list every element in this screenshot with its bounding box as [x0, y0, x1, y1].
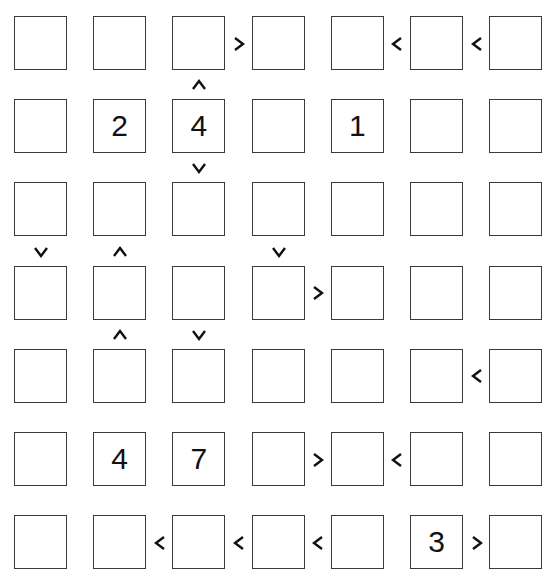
grid-cell[interactable]	[14, 182, 67, 236]
grid-cell[interactable]	[172, 16, 225, 70]
grid-cell[interactable]	[93, 266, 146, 320]
down-inequality-sign-icon	[190, 326, 208, 344]
grid-cell[interactable]	[410, 182, 463, 236]
grid-cell[interactable]	[331, 432, 384, 486]
greater-than-sign-icon	[468, 534, 486, 552]
grid-cell[interactable]	[331, 266, 384, 320]
grid-cell[interactable]	[331, 349, 384, 403]
grid-cell[interactable]	[172, 515, 225, 569]
less-than-sign-icon	[230, 534, 248, 552]
down-inequality-sign-icon	[270, 243, 288, 261]
grid-cell[interactable]	[93, 515, 146, 569]
less-than-sign-icon	[468, 367, 486, 385]
grid-cell[interactable]	[14, 266, 67, 320]
greater-than-sign-icon	[309, 284, 327, 302]
grid-cell[interactable]	[489, 182, 542, 236]
grid-cell[interactable]: 4	[172, 99, 225, 153]
grid-cell[interactable]: 7	[172, 432, 225, 486]
up-inequality-sign-icon	[190, 76, 208, 94]
less-than-sign-icon	[388, 451, 406, 469]
grid-cell[interactable]	[252, 99, 305, 153]
grid-cell[interactable]	[489, 432, 542, 486]
grid-cell[interactable]	[489, 16, 542, 70]
grid-cell[interactable]: 2	[93, 99, 146, 153]
up-inequality-sign-icon	[111, 243, 129, 261]
down-inequality-sign-icon	[32, 243, 50, 261]
grid-cell[interactable]	[172, 266, 225, 320]
less-than-sign-icon	[151, 534, 169, 552]
grid-cell[interactable]	[252, 349, 305, 403]
grid-cell[interactable]: 4	[93, 432, 146, 486]
grid-cell[interactable]	[331, 182, 384, 236]
grid-cell[interactable]	[14, 99, 67, 153]
grid-cell[interactable]	[489, 349, 542, 403]
grid-cell[interactable]	[93, 349, 146, 403]
down-inequality-sign-icon	[190, 159, 208, 177]
grid-cell[interactable]	[489, 266, 542, 320]
less-than-sign-icon	[468, 35, 486, 53]
greater-than-sign-icon	[230, 35, 248, 53]
futoshiki-board: 241473	[0, 0, 556, 572]
grid-cell[interactable]	[252, 182, 305, 236]
grid-cell[interactable]	[14, 432, 67, 486]
less-than-sign-icon	[309, 534, 327, 552]
less-than-sign-icon	[388, 35, 406, 53]
grid-cell[interactable]	[252, 266, 305, 320]
grid-cell[interactable]	[331, 515, 384, 569]
grid-cell[interactable]	[410, 266, 463, 320]
grid-cell[interactable]	[489, 515, 542, 569]
grid-cell[interactable]	[410, 99, 463, 153]
greater-than-sign-icon	[309, 451, 327, 469]
grid-cell[interactable]	[14, 16, 67, 70]
grid-cell[interactable]	[252, 515, 305, 569]
grid-cell[interactable]	[410, 432, 463, 486]
grid-cell[interactable]	[410, 349, 463, 403]
grid-cell[interactable]	[14, 349, 67, 403]
grid-cell[interactable]	[252, 16, 305, 70]
grid-cell[interactable]	[172, 182, 225, 236]
grid-cell[interactable]	[489, 99, 542, 153]
grid-cell[interactable]: 3	[410, 515, 463, 569]
grid-cell[interactable]: 1	[331, 99, 384, 153]
grid-cell[interactable]	[172, 349, 225, 403]
grid-cell[interactable]	[252, 432, 305, 486]
grid-cell[interactable]	[93, 182, 146, 236]
grid-cell[interactable]	[331, 16, 384, 70]
grid-cell[interactable]	[410, 16, 463, 70]
grid-cell[interactable]	[93, 16, 146, 70]
up-inequality-sign-icon	[111, 326, 129, 344]
grid-cell[interactable]	[14, 515, 67, 569]
